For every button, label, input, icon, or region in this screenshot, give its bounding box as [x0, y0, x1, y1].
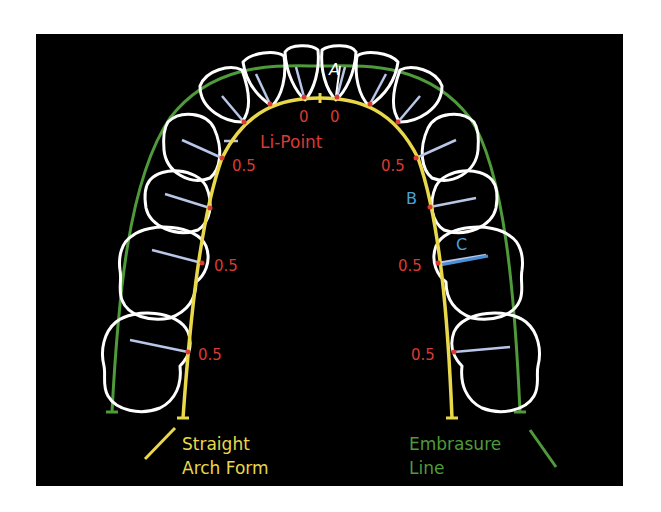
value-right-3: 0.5: [411, 348, 435, 363]
tooth-premolar-2-right: [432, 171, 497, 233]
value-left-2: 0.5: [214, 259, 238, 274]
value-incisor-left: 0: [299, 110, 309, 125]
legend-arch-form: Straight Arch Form: [182, 432, 269, 480]
legend-arch-form-line2: Arch Form: [182, 456, 269, 480]
point-label-c: C: [456, 237, 467, 253]
li-point-label: Li-Point: [260, 134, 323, 151]
legend-embrasure-line2: Line: [409, 456, 501, 480]
point-label-a: A: [329, 62, 340, 78]
value-right-2: 0.5: [398, 259, 422, 274]
tooth-premolar-2-left: [145, 171, 210, 233]
value-left-3: 0.5: [198, 348, 222, 363]
value-right-1: 0.5: [381, 159, 405, 174]
tooth-incisor-lateral-right: [356, 53, 398, 106]
value-incisor-right: 0: [330, 110, 340, 125]
embrasure-pointer-arrow: [530, 430, 556, 467]
tooth-molar-2-right: [452, 313, 540, 411]
tooth-canine-right: [393, 68, 442, 122]
legend-embrasure-line1: Embrasure: [409, 432, 501, 456]
value-left-1: 0.5: [232, 159, 256, 174]
point-label-b: B: [406, 191, 417, 207]
arch-form-pointer-arrow: [145, 428, 175, 459]
legend-embrasure-line: Embrasure Line: [409, 432, 501, 480]
legend-arch-form-line1: Straight: [182, 432, 269, 456]
